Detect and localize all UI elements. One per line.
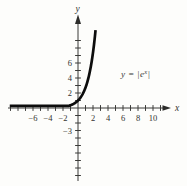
- exponential-graph-figure: x y −6−4−2246810642−3 y = |ex|: [0, 0, 187, 186]
- x-tick-label: −2: [58, 113, 67, 123]
- y-axis-arrow-icon: [75, 15, 81, 25]
- equation-suffix: |: [147, 69, 150, 79]
- x-tick-label: −6: [28, 113, 37, 123]
- function-graph: x y −6−4−2246810642−3 y = |ex|: [0, 0, 187, 186]
- x-axis-label: x: [174, 103, 180, 113]
- tick-marks: [11, 41, 161, 176]
- x-tick-label: 2: [91, 113, 95, 123]
- exp-curve: [10, 30, 96, 106]
- y-tick-label: 2: [68, 88, 72, 98]
- y-tick-label: 4: [68, 73, 73, 83]
- x-tick-label: −4: [43, 113, 53, 123]
- x-tick-label: 8: [136, 113, 140, 123]
- x-tick-label: 4: [106, 113, 111, 123]
- x-tick-label: 6: [121, 113, 125, 123]
- y-tick-label: −3: [63, 126, 72, 136]
- y-axis-label: y: [74, 4, 80, 14]
- axes: x y: [8, 4, 180, 182]
- x-axis-arrow-icon: [163, 105, 172, 111]
- equation-label: y = |ex|: [120, 68, 150, 80]
- y-tick-label: 6: [68, 58, 72, 68]
- equation-prefix: y = |e: [120, 69, 144, 79]
- x-tick-label: 10: [149, 113, 158, 123]
